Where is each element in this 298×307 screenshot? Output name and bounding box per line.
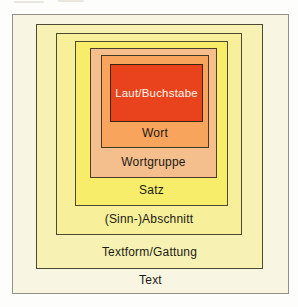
- cropped-print-artifact: [14, 1, 44, 3]
- level-label-text: Text: [13, 274, 288, 287]
- level-box-laut-buchstabe: Laut/Buchstabe: [110, 64, 203, 122]
- level-label-wortgruppe: Wortgruppe: [91, 156, 216, 169]
- level-label-sinn-abschnitt: (Sinn-)Abschnitt: [57, 213, 241, 226]
- level-box-textform-gattung: Laut/Buchstabe Wort Wortgruppe Satz (Sin…: [36, 24, 263, 269]
- level-box-text: Laut/Buchstabe Wort Wortgruppe Satz (Sin…: [12, 14, 289, 294]
- cropped-print-artifact: [58, 0, 84, 2]
- level-box-wort: Laut/Buchstabe Wort: [101, 55, 209, 148]
- level-box-wortgruppe: Laut/Buchstabe Wort Wortgruppe: [90, 48, 217, 178]
- level-label-laut-buchstabe: Laut/Buchstabe: [115, 87, 198, 100]
- level-box-sinn-abschnitt: Laut/Buchstabe Wort Wortgruppe Satz (Sin…: [56, 33, 242, 235]
- level-label-textform-gattung: Textform/Gattung: [37, 246, 262, 259]
- diagram-canvas: Laut/Buchstabe Wort Wortgruppe Satz (Sin…: [0, 0, 298, 307]
- level-label-satz: Satz: [76, 184, 227, 197]
- level-label-wort: Wort: [102, 127, 208, 140]
- level-box-satz: Laut/Buchstabe Wort Wortgruppe Satz: [75, 41, 228, 206]
